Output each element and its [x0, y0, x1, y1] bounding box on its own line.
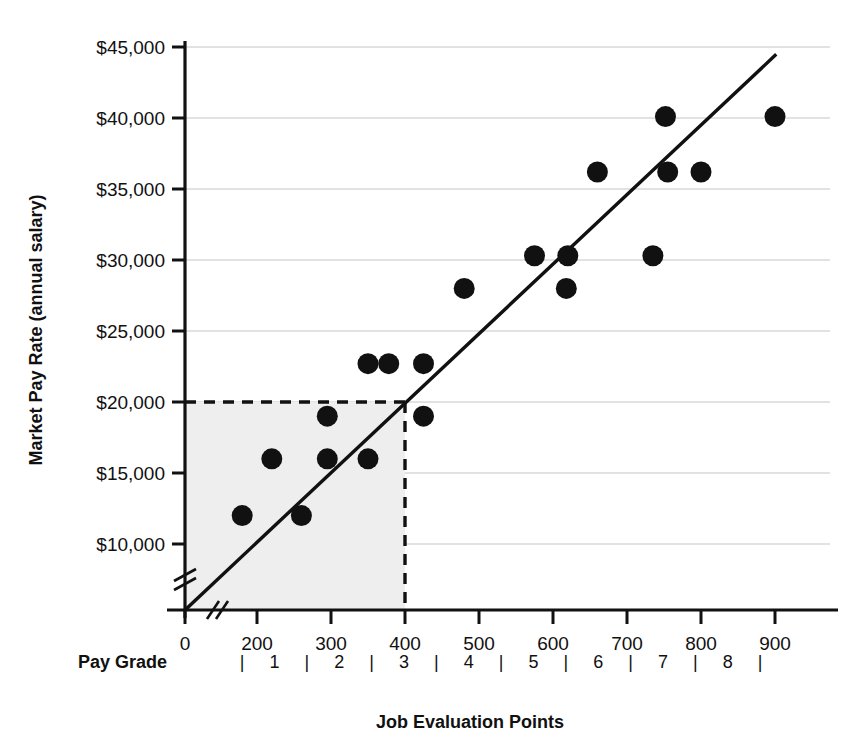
x-tick-label: 400 — [389, 633, 421, 654]
pay-grade-label: Pay Grade — [78, 652, 167, 672]
pay-grade-3: 3 — [399, 652, 409, 672]
pay-grade-separator: | — [693, 652, 698, 672]
pay-grade-separator: | — [564, 652, 569, 672]
data-point — [378, 353, 399, 374]
data-point — [691, 161, 712, 182]
x-tick-label: 900 — [759, 633, 791, 654]
x-tick-label: 800 — [685, 633, 717, 654]
data-point — [317, 406, 338, 427]
pay-grade-separator: | — [434, 652, 439, 672]
pay-grade-separator: | — [240, 652, 245, 672]
data-point — [261, 448, 282, 469]
x-tick-labels: 0200300400500600700800900 — [180, 633, 791, 654]
data-point — [765, 106, 786, 127]
y-tick-label: $30,000 — [96, 250, 165, 271]
data-point — [413, 353, 434, 374]
y-tick-label: $40,000 — [96, 108, 165, 129]
data-point — [291, 505, 312, 526]
data-point — [587, 161, 608, 182]
pay-grade-7: 7 — [658, 652, 668, 672]
data-point — [655, 106, 676, 127]
y-tick-label: $45,000 — [96, 37, 165, 58]
data-point — [413, 406, 434, 427]
data-point — [358, 448, 379, 469]
pay-grade-2: 2 — [334, 652, 344, 672]
data-point — [232, 505, 253, 526]
data-point — [454, 278, 475, 299]
data-point — [524, 245, 545, 266]
pay-grade-8: 8 — [723, 652, 733, 672]
x-tick-label: 300 — [315, 633, 347, 654]
pay-grade-separator: | — [369, 652, 374, 672]
data-point — [557, 245, 578, 266]
chart-container: $10,000$15,000$20,000$25,000$30,000$35,0… — [0, 0, 864, 755]
pay-grade-4: 4 — [464, 652, 474, 672]
y-tick-label: $10,000 — [96, 534, 165, 555]
data-point — [556, 278, 577, 299]
x-tick-label: 500 — [463, 633, 495, 654]
x-tick-label: 600 — [537, 633, 569, 654]
scatter-plot: $10,000$15,000$20,000$25,000$30,000$35,0… — [0, 0, 864, 755]
pay-grade-separator: | — [628, 652, 633, 672]
pay-grade-6: 6 — [593, 652, 603, 672]
pay-grade-1: 1 — [270, 652, 280, 672]
pay-grade-separator: | — [499, 652, 504, 672]
data-point — [642, 245, 663, 266]
pay-grade-separator: | — [758, 652, 763, 672]
pay-grade-5: 5 — [529, 652, 539, 672]
y-tick-label: $20,000 — [96, 392, 165, 413]
x-tick-label: 200 — [241, 633, 273, 654]
y-axis-title: Market Pay Rate (annual salary) — [26, 194, 46, 465]
pay-grade-separator: | — [305, 652, 310, 672]
y-tick-label: $15,000 — [96, 463, 165, 484]
y-tick-label: $25,000 — [96, 321, 165, 342]
x-tick-label: 700 — [611, 633, 643, 654]
x-tick-label: 0 — [180, 633, 191, 654]
data-point — [358, 353, 379, 374]
data-point — [317, 448, 338, 469]
y-tick-label: $35,000 — [96, 179, 165, 200]
data-point — [657, 161, 678, 182]
x-axis-title: Job Evaluation Points — [376, 712, 564, 732]
